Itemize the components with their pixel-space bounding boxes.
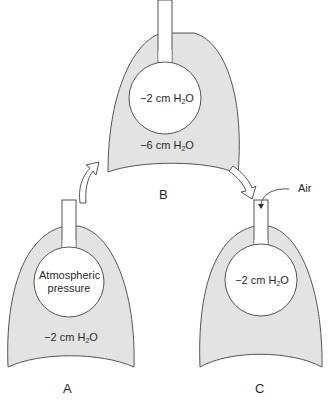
alveolar-pressure-c: −2 cm H2O xyxy=(227,274,297,287)
arrow-b-to-c xyxy=(229,166,256,199)
alveolus-a-label: Atmospheric pressure xyxy=(39,269,99,295)
arrow-a-to-b xyxy=(79,162,99,203)
pleural-pressure-b: −6 cm H2O xyxy=(132,139,202,152)
panel-letter-b: B xyxy=(159,187,168,202)
alveolar-pressure-b: −2 cm H2O xyxy=(132,92,202,105)
panel-letter-c: C xyxy=(255,381,264,396)
panel-letter-a: A xyxy=(63,381,72,396)
air-label: Air xyxy=(298,182,311,195)
pleural-pressure-a: −2 cm H2O xyxy=(36,331,106,344)
air-arrow xyxy=(258,189,289,209)
